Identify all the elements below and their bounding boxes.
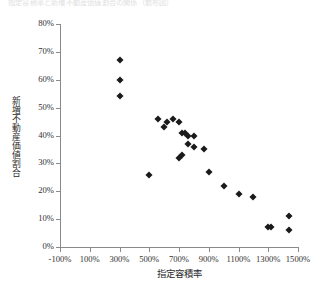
x-axis-tick-mark [298, 248, 299, 252]
x-axis-tick-label: 1300% [256, 254, 280, 265]
x-axis-tick-label: 1500% [286, 254, 310, 265]
x-axis-title: 指定容積率 [60, 268, 299, 280]
y-axis-tick-mark [56, 108, 60, 109]
x-axis-tick-label: -100% [49, 254, 72, 265]
x-axis-tick-label: 500% [139, 254, 159, 265]
y-axis-tick-label: 40% [38, 130, 54, 141]
x-axis-tick-mark [268, 248, 269, 252]
y-axis-tick-mark [56, 80, 60, 81]
y-axis-title: 新増不動産価値割合 [3, 96, 19, 206]
x-axis-tick-mark [149, 248, 150, 252]
plot-area [60, 24, 298, 247]
x-axis-tick-label: 900% [199, 254, 219, 265]
y-axis-tick-label: 80% [38, 18, 54, 29]
x-axis-tick-mark [209, 248, 210, 252]
y-axis-line [60, 24, 61, 248]
x-axis-tick-mark [179, 248, 180, 252]
x-axis-tick-label: 1100% [226, 254, 250, 265]
y-axis-tick-mark [56, 24, 60, 25]
y-axis-tick-label: 10% [38, 213, 54, 224]
x-axis-tick-mark [239, 248, 240, 252]
y-axis-tick-label: 30% [38, 157, 54, 168]
y-axis-tick-label: 60% [38, 74, 54, 85]
y-axis-tick-mark [56, 219, 60, 220]
y-axis-tick-label: 0% [43, 241, 54, 252]
figure-top-note: 指定容積率と新増不動産価値割合の関係（散布図） [8, 0, 248, 8]
y-axis-tick-mark [56, 52, 60, 53]
y-axis-tick-mark [56, 136, 60, 137]
x-axis-tick-mark [60, 248, 61, 252]
x-axis-tick-label: 300% [109, 254, 129, 265]
y-axis-tick-label: 70% [38, 46, 54, 57]
y-axis-tick-mark [56, 191, 60, 192]
x-axis-tick-mark [90, 248, 91, 252]
scatter-chart-figure: 指定容積率と新増不動産価値割合の関係（散布図） 0%10%20%30%40%50… [0, 0, 323, 288]
y-axis-tick-mark [56, 163, 60, 164]
x-axis-tick-label: 100% [80, 254, 100, 265]
y-axis-tick-label: 50% [38, 102, 54, 113]
x-axis-tick-mark [120, 248, 121, 252]
x-axis-tick-label: 700% [169, 254, 189, 265]
y-axis-tick-label: 20% [38, 185, 54, 196]
